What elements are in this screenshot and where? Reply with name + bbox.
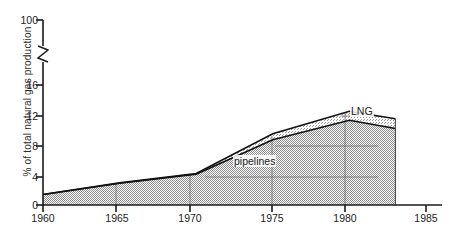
series-label-lng: LNG — [350, 105, 374, 117]
series-label-pipelines: pipelines — [233, 155, 276, 167]
natural-gas-area-chart: % of total natural gas production 100 16… — [0, 0, 450, 244]
axis-break-zigzag-icon — [38, 46, 48, 62]
page-bleed-artifact — [0, 234, 450, 244]
x-tick-marks — [43, 205, 426, 212]
plot-area — [0, 0, 450, 244]
